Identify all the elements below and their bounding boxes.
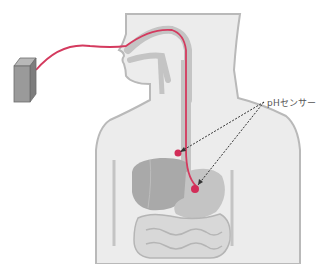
recorder-device — [14, 58, 36, 102]
ph-sensor-label: pHセンサー — [267, 96, 317, 109]
sensor-upper — [175, 150, 182, 157]
intestines — [134, 214, 230, 258]
sensor-lower — [191, 185, 199, 193]
ph-monitoring-diagram — [0, 0, 323, 264]
